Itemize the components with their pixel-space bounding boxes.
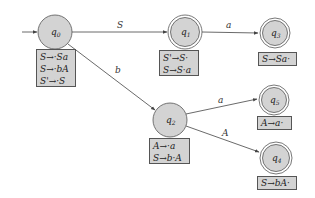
- state-q2: q2: [153, 103, 187, 137]
- edge-label-a: a: [218, 95, 223, 105]
- item: S→b·A: [153, 152, 186, 164]
- item: S→S·a: [163, 64, 195, 76]
- state-q5: q5: [259, 85, 289, 115]
- item: S→·Sa: [40, 51, 72, 63]
- item: A→a·: [261, 117, 288, 129]
- edge-label-a: a: [226, 20, 231, 30]
- item: S→Sa·: [262, 53, 293, 65]
- edge-label-A: A: [221, 128, 229, 138]
- edge-q0-q1: S: [72, 20, 167, 32]
- items-q5: A→a·: [257, 116, 292, 130]
- state-q4: q4: [260, 142, 292, 174]
- items-q1: S'→S· S→S·a: [159, 50, 199, 76]
- item: A→·a: [153, 140, 186, 152]
- edge-label-S: S: [117, 20, 123, 30]
- edge-q2-q4: A: [186, 126, 259, 152]
- items-q3: S→Sa·: [258, 52, 297, 66]
- edge-q0-q2: b: [68, 44, 155, 110]
- item: S'→·S: [40, 75, 72, 87]
- edge-q2-q5: a: [186, 95, 257, 114]
- items-q0: S→·Sa S→·bA S'→·S: [36, 49, 76, 87]
- edge-label-b: b: [115, 65, 121, 75]
- item: S'→S·: [163, 52, 195, 64]
- items-q2: A→·a S→b·A: [149, 138, 190, 164]
- state-q3: q3: [260, 18, 290, 48]
- edge-q1-q3: a: [202, 20, 258, 33]
- state-q1: q1: [168, 15, 202, 49]
- items-q4: S→bA·: [257, 176, 297, 190]
- automaton-canvas: S a b a A q0 q1 q3 q2 q5 q: [0, 0, 315, 198]
- item: S→bA·: [261, 177, 293, 189]
- state-q0: q0: [38, 15, 72, 49]
- item: S→·bA: [40, 63, 72, 75]
